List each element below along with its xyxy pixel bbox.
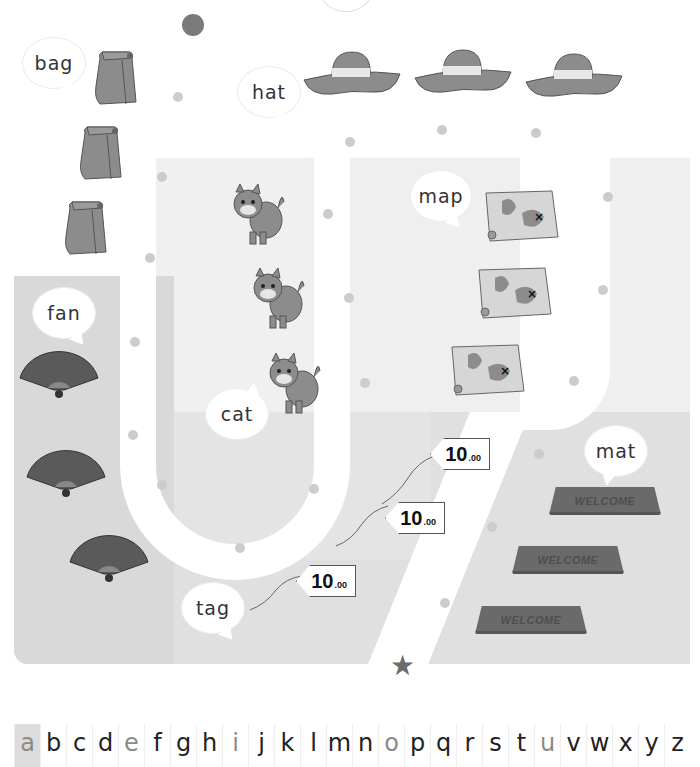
- alphabet-letter-r: r: [456, 724, 482, 767]
- path-dot[interactable]: [437, 125, 447, 135]
- map-icon: ×: [475, 264, 555, 322]
- tag-string: [246, 570, 306, 615]
- alphabet-letter-i: i: [222, 724, 248, 767]
- word-label: mat: [596, 440, 637, 462]
- alphabet-letter-s: s: [482, 724, 508, 767]
- word-bubble-map: map: [410, 170, 472, 222]
- path-dot[interactable]: [235, 543, 245, 553]
- hat-icon: [524, 50, 624, 100]
- bag-icon: [62, 198, 108, 256]
- path-dot[interactable]: [440, 598, 450, 608]
- alphabet-letter-g: g: [170, 724, 196, 767]
- alphabet-letter-j: j: [248, 724, 274, 767]
- alphabet-letter-b: b: [40, 724, 66, 767]
- alphabet-letter-f: f: [144, 724, 170, 767]
- alphabet-strip: abcdefghijklmnopqrstuvwxyz: [14, 724, 690, 767]
- word-bubble-cat: cat: [205, 388, 269, 440]
- alphabet-letter-n: n: [352, 724, 378, 767]
- path-dot[interactable]: [598, 285, 608, 295]
- alphabet-letter-o: o: [378, 724, 404, 767]
- welcome-mat: WELCOME: [549, 487, 661, 515]
- word-label: bag: [35, 52, 74, 74]
- svg-text:×: ×: [534, 210, 544, 224]
- path-dot[interactable]: [173, 92, 183, 102]
- path-dot[interactable]: [309, 484, 319, 494]
- word-label: hat: [252, 81, 286, 103]
- alphabet-letter-z: z: [664, 724, 690, 767]
- path-dot[interactable]: [157, 172, 167, 182]
- alphabet-letter-d: d: [92, 724, 118, 767]
- hat-icon: [302, 48, 402, 98]
- path-dot[interactable]: [487, 522, 497, 532]
- bag-icon: [77, 123, 123, 181]
- path-dot[interactable]: [534, 449, 544, 459]
- alphabet-letter-p: p: [404, 724, 430, 767]
- path-dot[interactable]: [360, 378, 370, 388]
- alphabet-letter-k: k: [274, 724, 300, 767]
- start-dot[interactable]: [182, 14, 204, 36]
- price-main: 10: [445, 443, 467, 466]
- fan-icon: [18, 344, 100, 400]
- tag-string: [378, 448, 438, 508]
- fan-icon: [25, 443, 107, 499]
- svg-text:×: ×: [500, 364, 510, 378]
- word-label: tag: [196, 597, 230, 619]
- cat-icon: [228, 184, 286, 246]
- alphabet-letter-a: a: [14, 724, 40, 767]
- alphabet-letter-l: l: [300, 724, 326, 767]
- alphabet-letter-q: q: [430, 724, 456, 767]
- path-dot[interactable]: [603, 192, 613, 202]
- word-label: map: [418, 185, 463, 207]
- welcome-mat: WELCOME: [512, 546, 624, 574]
- alphabet-letter-e: e: [118, 724, 144, 767]
- path-dot[interactable]: [344, 293, 354, 303]
- price-main: 10: [400, 507, 422, 530]
- mat-label: WELCOME: [501, 614, 562, 626]
- price-cents: .00: [423, 517, 436, 527]
- path-dot[interactable]: [323, 209, 333, 219]
- cat-icon: [248, 268, 306, 330]
- mat-label: WELCOME: [575, 495, 636, 507]
- path-dot[interactable]: [145, 253, 155, 263]
- path-dot[interactable]: [345, 137, 355, 147]
- alphabet-letter-t: t: [508, 724, 534, 767]
- word-bubble-fan: fan: [32, 287, 96, 339]
- word-bubble-tag: tag: [181, 582, 245, 634]
- bag-icon: [92, 48, 138, 106]
- alphabet-letter-h: h: [196, 724, 222, 767]
- word-bubble-mat: mat: [584, 425, 648, 477]
- mat-label: WELCOME: [538, 554, 599, 566]
- end-star-icon[interactable]: ★: [390, 652, 415, 680]
- path-dot[interactable]: [157, 480, 167, 490]
- path-dot[interactable]: [569, 376, 579, 386]
- word-bubble-bag: bag: [22, 37, 86, 89]
- alphabet-letter-m: m: [326, 724, 352, 767]
- price-main: 10: [311, 570, 333, 593]
- welcome-mat: WELCOME: [475, 606, 587, 634]
- fan-icon: [68, 528, 150, 584]
- alphabet-letter-x: x: [612, 724, 638, 767]
- word-label: cat: [221, 403, 254, 425]
- svg-text:×: ×: [527, 287, 537, 301]
- price-cents: .00: [334, 580, 347, 590]
- word-bubble-hat: hat: [237, 66, 301, 118]
- alphabet-letter-u: u: [534, 724, 560, 767]
- path-dot[interactable]: [531, 128, 541, 138]
- alphabet-letter-c: c: [66, 724, 92, 767]
- price-cents: .00: [468, 453, 481, 463]
- map-icon: ×: [482, 187, 562, 245]
- path-dot[interactable]: [128, 430, 138, 440]
- tag-string: [332, 500, 392, 550]
- path-dot[interactable]: [130, 337, 140, 347]
- alphabet-letter-v: v: [560, 724, 586, 767]
- hat-icon: [413, 46, 513, 96]
- word-label: fan: [47, 302, 80, 324]
- map-icon: ×: [448, 341, 528, 399]
- partial-speech-bubble-top: [320, 0, 372, 12]
- cat-icon: [264, 353, 322, 415]
- alphabet-letter-w: w: [586, 724, 612, 767]
- alphabet-letter-y: y: [638, 724, 664, 767]
